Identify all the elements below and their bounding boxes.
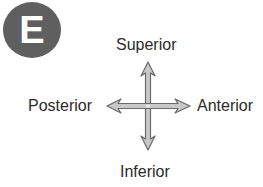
four-way-arrow-icon [0, 0, 263, 187]
